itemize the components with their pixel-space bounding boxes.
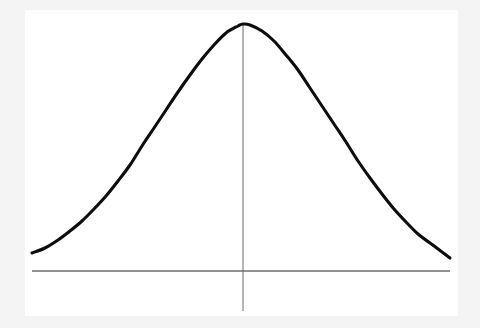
normal-distribution-curve [32, 24, 450, 258]
bell-curve-chart [0, 0, 480, 328]
figure-root [0, 0, 480, 328]
